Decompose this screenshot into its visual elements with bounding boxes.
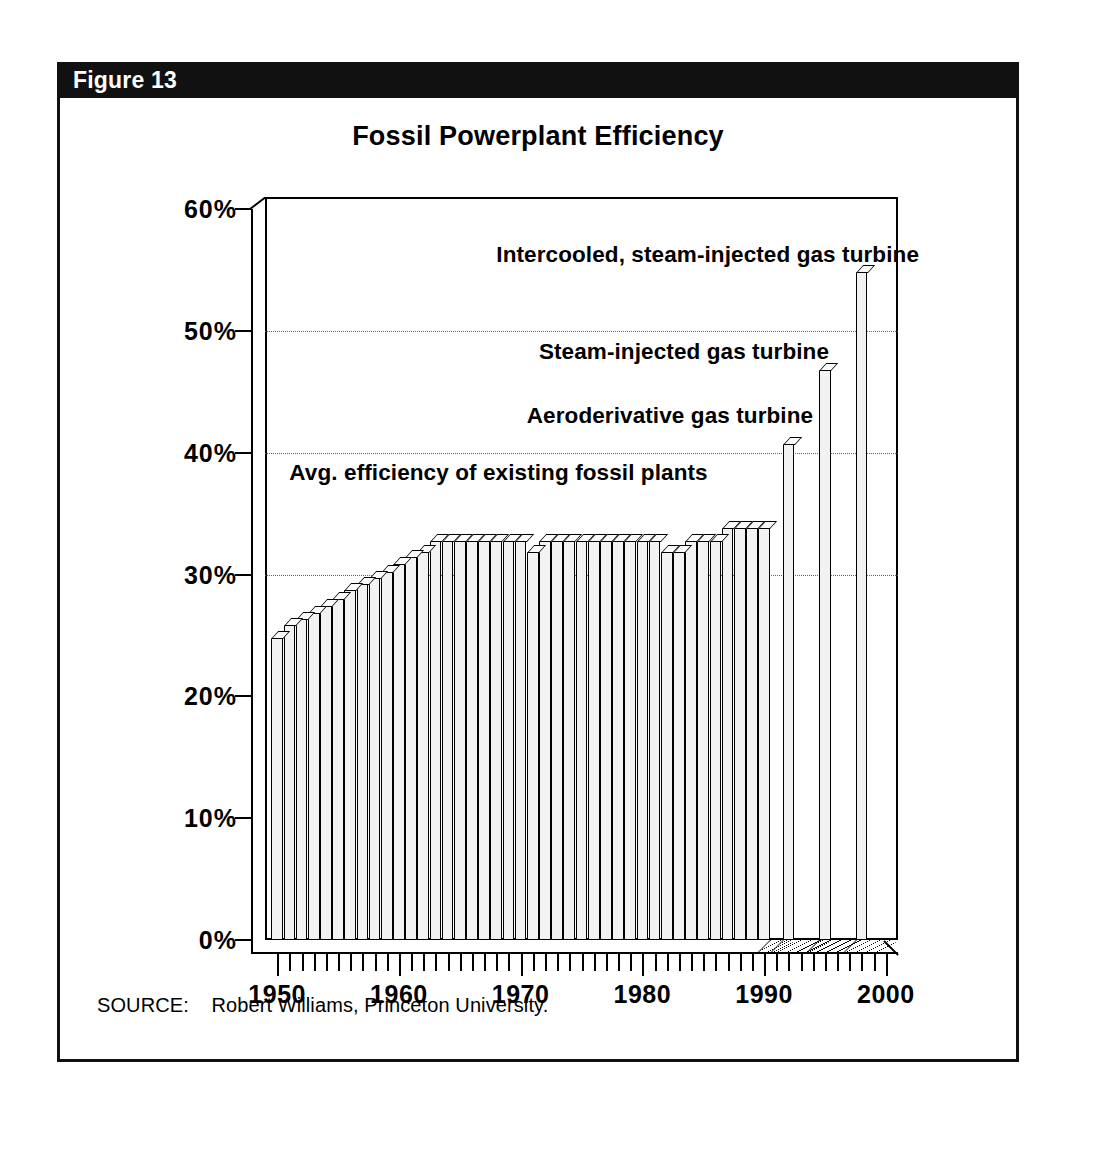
bar-1990 [758, 521, 770, 940]
x-tick-1989 [752, 954, 754, 971]
x-tick-1978 [618, 954, 620, 971]
x-tick-1975 [582, 954, 584, 971]
floor-hatching [756, 940, 898, 954]
bar-1959 [381, 565, 393, 940]
x-tick-1974 [569, 954, 571, 971]
y-tick-mark-10% [235, 817, 251, 819]
bar-face [308, 613, 320, 940]
x-tick-1968 [496, 954, 498, 971]
source-label: SOURCE: [97, 994, 189, 1016]
bar-face [734, 528, 746, 940]
bar-1987 [722, 521, 734, 940]
x-tick-1969 [508, 954, 510, 971]
bar-1954 [320, 599, 332, 940]
annotation-3: Aeroderivative gas turbine [527, 403, 813, 429]
bar-1975 [576, 534, 588, 940]
source-note: SOURCE: Robert Williams, Princeton Unive… [97, 994, 548, 1017]
bar-1985 [697, 534, 709, 940]
bar-face [637, 541, 649, 940]
bar-face [673, 552, 685, 940]
bar-face [357, 584, 369, 940]
x-tick-1980 [642, 954, 644, 976]
x-tick-1979 [630, 954, 632, 971]
bar-1973 [551, 534, 563, 940]
bar-face [490, 541, 502, 940]
figure-banner: Figure 13 [57, 62, 1019, 98]
x-tick-1987 [728, 954, 730, 971]
x-tick-1976 [594, 954, 596, 971]
figure-body: Fossil Powerplant Efficiency Intercooled… [57, 98, 1019, 1062]
x-tick-1957 [362, 954, 364, 971]
bar-1960 [393, 557, 405, 940]
x-tick-1955 [338, 954, 340, 971]
x-tick-1954 [326, 954, 328, 971]
bar-1989 [746, 521, 758, 940]
bar-face [783, 444, 795, 940]
bar-face [551, 541, 563, 940]
y-tick-mark-40% [235, 452, 251, 454]
bar-1972 [539, 534, 551, 940]
x-tick-1992 [788, 954, 790, 971]
bar-face [478, 541, 490, 940]
x-tick-1994 [813, 954, 815, 971]
bar-face [466, 541, 478, 940]
x-tick-1959 [387, 954, 389, 971]
bar-1980 [637, 534, 649, 940]
x-tick-1962 [423, 954, 425, 971]
x-tick-1958 [375, 954, 377, 971]
bar-face [405, 557, 417, 940]
bar-1957 [357, 577, 369, 940]
y-tick-mark-30% [235, 574, 251, 576]
bar-face [393, 564, 405, 940]
bar-face [649, 541, 661, 940]
bar-face [369, 578, 381, 940]
x-tick-1977 [606, 954, 608, 971]
x-tick-1986 [715, 954, 717, 971]
bar-1958 [369, 571, 381, 940]
bar-face [515, 541, 527, 940]
bar-face [746, 528, 758, 940]
y-tick-mark-20% [235, 695, 251, 697]
bar-1970 [515, 534, 527, 940]
bar-1992 [783, 437, 795, 940]
x-tick-1965 [460, 954, 462, 971]
bar-1950 [271, 631, 283, 940]
x-tick-label-2000: 2000 [857, 980, 915, 1009]
bar-1964 [442, 534, 454, 940]
x-tick-1960 [399, 954, 401, 976]
bar-face [344, 590, 356, 940]
bar-face [442, 541, 454, 940]
x-tick-1985 [703, 954, 705, 971]
bar-1979 [624, 534, 636, 940]
bar-face [503, 541, 515, 940]
bar-1983 [673, 545, 685, 940]
figure-number-label: Figure 13 [73, 67, 177, 94]
x-tick-1999 [874, 954, 876, 971]
bar-1953 [308, 606, 320, 940]
bar-1978 [612, 534, 624, 940]
x-tick-1951 [289, 954, 291, 971]
bar-face [563, 541, 575, 940]
bar-face [722, 528, 734, 940]
bar-1956 [344, 583, 356, 940]
bar-face [588, 541, 600, 940]
x-tick-1953 [314, 954, 316, 971]
chart-plot-area: Intercooled, steam-injected gas turbineS… [190, 158, 980, 998]
bar-1974 [563, 534, 575, 940]
bar-top-cap [783, 437, 802, 445]
bar-1965 [454, 534, 466, 940]
x-tick-1963 [435, 954, 437, 971]
source-text: Robert Williams, Princeton University. [211, 994, 548, 1016]
x-tick-2000 [886, 954, 888, 976]
bar-face [417, 552, 429, 940]
bar-top-cap [856, 265, 875, 273]
bar-face [576, 541, 588, 940]
x-tick-1983 [679, 954, 681, 971]
x-tick-1950 [277, 954, 279, 976]
bar-1951 [284, 618, 296, 940]
bar-1955 [332, 592, 344, 940]
bar-1968 [490, 534, 502, 940]
bar-face [284, 625, 296, 940]
x-tick-label-1980: 1980 [614, 980, 672, 1009]
chart-title: Fossil Powerplant Efficiency [60, 121, 1016, 152]
